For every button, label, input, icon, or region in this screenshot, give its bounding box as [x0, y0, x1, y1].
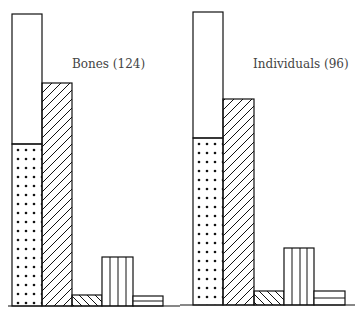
bar-individuals-diagonal [223, 99, 254, 305]
bar-bones-dotted [12, 144, 42, 306]
bar-individuals-blank [193, 12, 223, 138]
label-bones: Bones (124) [72, 57, 145, 71]
chart-canvas: Bones (124) Individuals (96) [0, 0, 355, 317]
group-individuals: Individuals (96) [193, 12, 349, 305]
bar-individuals-horizontal [314, 291, 345, 305]
label-individuals: Individuals (96) [253, 57, 349, 71]
bar-bones-diagonal [42, 83, 72, 306]
bar-bones-backhatch [72, 295, 102, 306]
bar-bones-vertical [102, 257, 133, 306]
group-bones: Bones (124) [12, 14, 163, 306]
bar-individuals-vertical [284, 248, 314, 305]
bar-bones-horizontal [133, 296, 163, 306]
bar-individuals-backhatch [254, 291, 284, 305]
bar-individuals-dotted [193, 138, 223, 305]
bar-bones-blank [12, 14, 42, 144]
